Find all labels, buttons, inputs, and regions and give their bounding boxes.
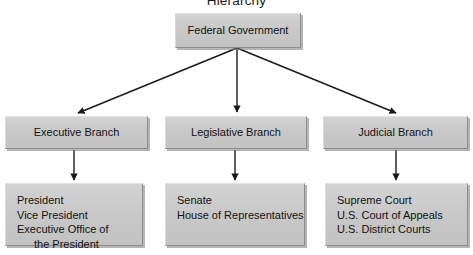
- node-executive-members[interactable]: President Vice President Executive Offic…: [5, 183, 143, 246]
- node-judicial-members[interactable]: Supreme Court U.S. Court of Appeals U.S.…: [325, 183, 468, 246]
- list-item: Vice President: [17, 208, 142, 223]
- list-item: the President: [17, 237, 142, 252]
- node-legislative-members[interactable]: Senate House of Representatives: [165, 183, 305, 246]
- node-executive-branch[interactable]: Executive Branch: [5, 116, 148, 149]
- node-federal-government[interactable]: Federal Government: [175, 13, 301, 48]
- list-item: President: [17, 193, 142, 208]
- diagram-canvas: Hierarchy Federal Government Executive B…: [0, 0, 473, 255]
- list-item: House of Representatives: [177, 208, 304, 223]
- list-item: Senate: [177, 193, 304, 208]
- connector-root-to-judicial: [237, 48, 396, 113]
- list-item: Executive Office of: [17, 222, 142, 237]
- node-legislative-branch-label: Legislative Branch: [191, 126, 281, 139]
- node-judicial-branch-label: Judicial Branch: [358, 126, 433, 139]
- list-item: U.S. District Courts: [337, 222, 467, 237]
- connector-root-to-executive: [78, 48, 237, 113]
- list-item: U.S. Court of Appeals: [337, 208, 467, 223]
- node-judicial-branch[interactable]: Judicial Branch: [323, 116, 468, 149]
- node-executive-branch-label: Executive Branch: [34, 126, 120, 139]
- node-federal-government-label: Federal Government: [188, 24, 289, 37]
- node-legislative-branch[interactable]: Legislative Branch: [165, 116, 307, 149]
- list-item: Supreme Court: [337, 193, 467, 208]
- diagram-title: Hierarchy: [0, 0, 473, 8]
